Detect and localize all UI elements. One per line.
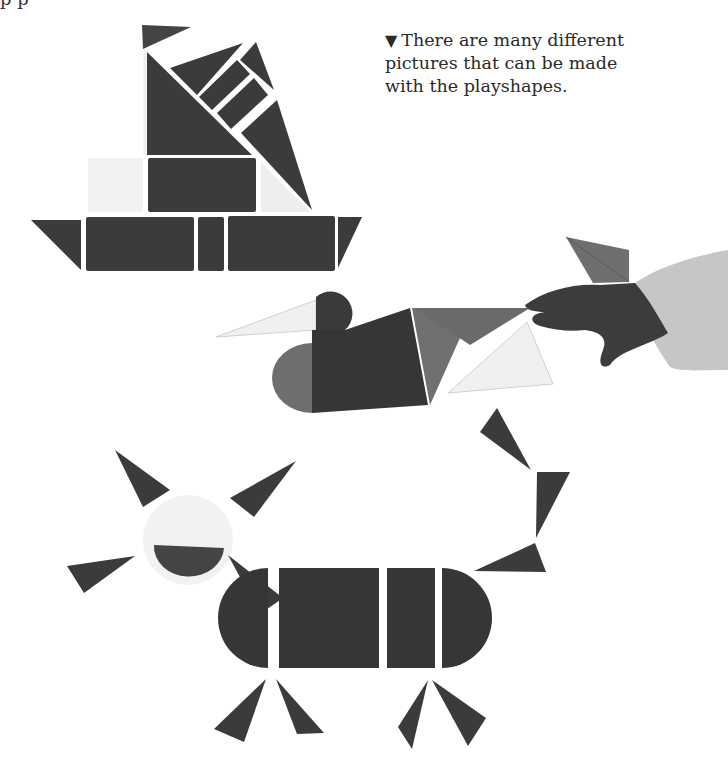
hull-rect-1 [86,217,194,271]
tail-triangle-3 [474,543,546,572]
leg-triangle-2 [276,679,324,734]
beak-white-triangle [216,300,316,337]
leg-triangle-1 [214,679,266,742]
cat-figure [67,408,570,749]
tail-triangle-1 [480,408,531,470]
cabin-rect [148,158,256,212]
book-page: p p ▼There are many different pictures t… [0,0,728,762]
body-rect-large [279,568,379,668]
head-extension [316,292,352,330]
stern-triangle-right [338,217,362,268]
body-semicircle-left [218,568,268,668]
left-ear-triangle [115,450,170,507]
sailboat-figure [31,25,362,271]
body-rect-small [387,568,435,668]
body-semicircle-left [272,343,312,413]
tail-triangle-2 [536,472,570,538]
hull-rect-3 [228,216,335,271]
body-semicircle-right [442,568,492,668]
bow-triangle-left [31,220,81,270]
whisker-triangle [67,556,135,593]
leg-triangle-4 [432,680,486,746]
leg-triangle-3 [398,680,428,749]
playshapes-illustration [0,0,728,762]
right-ear-triangle [230,461,296,517]
flag-triangle [142,25,191,49]
hull-top-white-left [88,158,143,212]
hull-rect-2 [198,217,224,271]
